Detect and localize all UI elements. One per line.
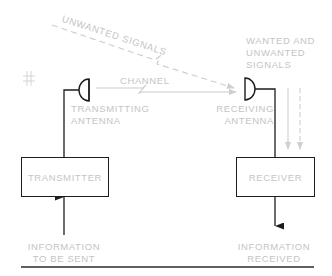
receiving-antenna-icon bbox=[245, 78, 255, 100]
receiver-block: RECEIVER bbox=[236, 157, 315, 197]
information-to-be-sent-label: INFORMATION TO BE SENT bbox=[20, 241, 108, 265]
receiving-antenna-label: RECEIVING ANTENNA bbox=[210, 103, 274, 127]
receiver-label: RECEIVER bbox=[249, 172, 302, 183]
transmitter-block: TRANSMITTER bbox=[21, 157, 109, 197]
transmitting-antenna-label: TRANSMITTING ANTENNA bbox=[71, 103, 149, 127]
info-received-line1: INFORMATION bbox=[230, 241, 318, 253]
wanted-unwanted-signals-label: WANTED AND UNWANTED SIGNALS bbox=[246, 35, 315, 71]
channel-label: CHANNEL bbox=[120, 75, 170, 87]
info-received-line2: RECEIVED bbox=[230, 253, 318, 265]
info-sent-line2: TO BE SENT bbox=[20, 253, 108, 265]
receiving-antenna-label-line1: RECEIVING bbox=[210, 103, 274, 115]
info-sent-line1: INFORMATION bbox=[20, 241, 108, 253]
hash-mark-icon bbox=[23, 71, 35, 86]
receiving-antenna-label-line2: ANTENNA bbox=[210, 115, 274, 127]
transmitting-antenna-label-line2: ANTENNA bbox=[71, 115, 149, 127]
wanted-unwanted-label-line2: UNWANTED bbox=[246, 47, 315, 59]
transmitter-label: TRANSMITTER bbox=[28, 172, 102, 183]
wanted-unwanted-label-line3: SIGNALS bbox=[246, 59, 315, 71]
wanted-unwanted-label-line1: WANTED AND bbox=[246, 35, 315, 47]
transmitting-antenna-icon bbox=[79, 79, 89, 101]
transmitting-antenna-label-line1: TRANSMITTING bbox=[71, 103, 149, 115]
information-received-label: INFORMATION RECEIVED bbox=[230, 241, 318, 265]
